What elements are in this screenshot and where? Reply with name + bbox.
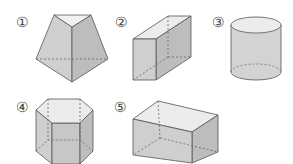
shape-2-solid bbox=[133, 16, 191, 80]
shape-5-label: ⑤ bbox=[113, 100, 127, 114]
shape-2-label: ② bbox=[114, 15, 128, 29]
shape-3-label: ③ bbox=[211, 15, 225, 29]
shape-4-label: ④ bbox=[15, 100, 29, 114]
shape-4-solid bbox=[36, 99, 93, 164]
shape-1-label: ① bbox=[15, 15, 29, 29]
shape-5-solid bbox=[133, 101, 218, 163]
shape-3-solid bbox=[231, 17, 281, 80]
shape-1-solid bbox=[36, 15, 108, 82]
solids-figure bbox=[0, 0, 293, 164]
